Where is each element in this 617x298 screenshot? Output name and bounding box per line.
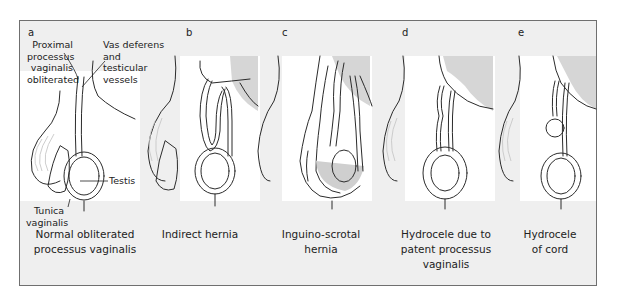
figure-frame: a Proximal processus vaginalis obliterat…	[19, 20, 597, 286]
label-proximal-processus: Proximal processus vaginalis obliterated	[27, 39, 73, 85]
caption-a: Normal obliterated processus vaginalis	[20, 227, 150, 257]
panel-e: e Hydrocele of cord	[505, 21, 596, 285]
hydrocele-patent-processus-illustration	[385, 21, 505, 221]
caption-b: Indirect hernia	[135, 227, 265, 242]
indirect-hernia-illustration	[140, 21, 260, 221]
panel-c: c Inguino-scrotal hernia	[260, 21, 385, 285]
label-tunica-vaginalis: Tunica vaginalis	[26, 205, 68, 228]
panel-a: a Proximal processus vaginalis obliterat…	[20, 21, 140, 285]
label-testis: Testis	[109, 175, 135, 187]
hydrocele-of-cord-illustration	[505, 21, 596, 221]
panel-b: b Indirect hernia	[140, 21, 260, 285]
caption-c: Inguino-scrotal hernia	[256, 227, 386, 257]
caption-e: Hydrocele of cord	[485, 227, 615, 257]
inguino-scrotal-hernia-illustration	[260, 21, 385, 221]
